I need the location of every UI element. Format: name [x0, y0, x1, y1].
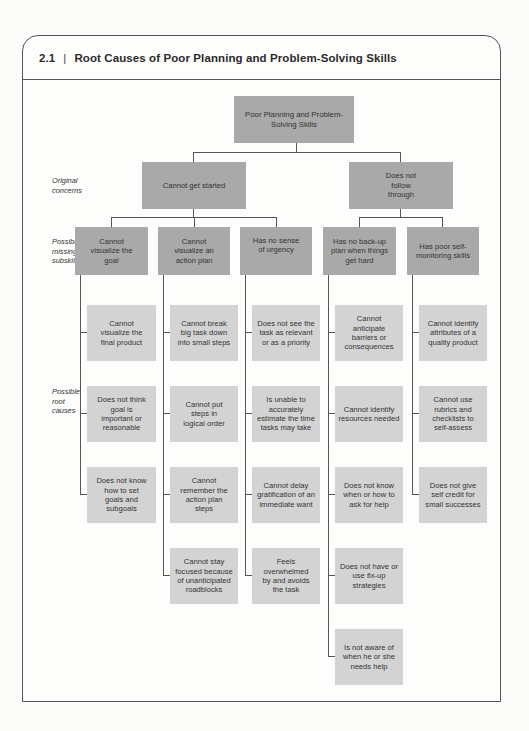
connector: [80, 494, 87, 495]
cause-node: Cannot break big task down into small st…: [170, 305, 238, 361]
connector: [245, 275, 246, 575]
connector: [276, 217, 277, 227]
connector: [194, 217, 195, 227]
subskill-node: Cannot visualize the goal: [75, 227, 148, 275]
connector: [328, 413, 335, 414]
cause-node: Is not aware of when he or she needs hel…: [335, 629, 403, 685]
figure-title: Root Causes of Poor Planning and Problem…: [74, 52, 396, 64]
cause-node: Cannot visualize the final product: [87, 305, 156, 361]
label-root-causes: Possible root causes: [52, 387, 80, 416]
cause-node: Cannot delay gratification of an immedia…: [252, 467, 320, 523]
figure-number: 2.1: [39, 52, 55, 64]
connector: [245, 494, 252, 495]
connector: [163, 332, 170, 333]
label-line: causes: [52, 406, 80, 416]
connector: [328, 494, 335, 495]
cause-node: Cannot stay focused because of unanticip…: [170, 548, 238, 604]
cause-node: Does not see the task as relevant or as …: [252, 305, 320, 361]
root-node: Poor Planning and Problem-Solving Skills: [234, 96, 354, 143]
cause-node: Does not think goal is important or reas…: [87, 386, 156, 442]
concern-node-does-not-follow-through: Does not follow through: [349, 162, 453, 209]
connector: [359, 217, 443, 218]
connector: [245, 332, 252, 333]
connector: [328, 656, 335, 657]
connector: [400, 152, 401, 162]
cause-node: Feels overwhelmed by and avoids the task: [252, 548, 320, 604]
connector: [80, 275, 81, 494]
connector: [80, 413, 87, 414]
connector: [412, 332, 419, 333]
connector: [328, 332, 335, 333]
label-line: Original: [52, 176, 82, 186]
connector: [412, 413, 419, 414]
connector: [111, 217, 112, 227]
cause-node: Cannot put steps in logical order: [170, 386, 238, 442]
connector: [245, 413, 252, 414]
connector: [245, 575, 252, 576]
connector: [163, 494, 170, 495]
connector: [80, 332, 87, 333]
label-line: root: [52, 397, 80, 407]
cause-node: Does not know how to set goals and subgo…: [87, 467, 156, 523]
connector: [412, 275, 413, 494]
cause-node: Is unable to accurately estimate the tim…: [252, 386, 320, 442]
label-original-concerns: Original concerns: [52, 176, 82, 195]
cause-node: Does not have or use fix-up strategies: [335, 548, 403, 604]
label-line: concerns: [52, 186, 82, 196]
connector: [412, 494, 419, 495]
label-line: Possible: [52, 387, 80, 397]
cause-node: Cannot identify attributes of a quality …: [419, 305, 487, 361]
subskill-node: Has no back-up plan when things get hard: [323, 227, 396, 275]
cause-node: Does not give self credit for small succ…: [419, 467, 487, 523]
connector: [193, 152, 194, 162]
connector: [163, 575, 170, 576]
concern-node-cannot-get-started: Cannot get started: [142, 162, 246, 209]
cause-node: Cannot use rubrics and checklists to sel…: [419, 386, 487, 442]
connector: [442, 217, 443, 227]
header-separator: |: [63, 52, 66, 64]
connector: [359, 217, 360, 227]
connector: [296, 143, 297, 152]
connector: [163, 413, 170, 414]
connector: [193, 152, 401, 153]
cause-node: Cannot anticipate barriers or consequenc…: [335, 305, 403, 361]
cause-node: Does not know when or how to ask for hel…: [335, 467, 403, 523]
cause-node: Cannot remember the action plan steps: [170, 467, 238, 523]
subskill-node: Has poor self-monitoring skills: [407, 227, 479, 275]
connector: [328, 575, 335, 576]
cause-node: Cannot identify resources needed: [335, 386, 403, 442]
connector: [163, 275, 164, 575]
subskill-node: Has no sense of urgency: [240, 227, 312, 275]
subskill-node: Cannot visualize an action plan: [158, 227, 230, 275]
figure-header: 2.1 | Root Causes of Poor Planning and P…: [23, 36, 500, 80]
